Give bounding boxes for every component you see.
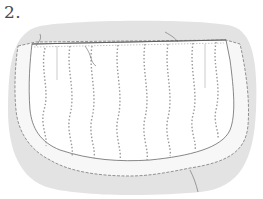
- apron-body: [29, 40, 234, 161]
- apron-illustration: [0, 0, 263, 199]
